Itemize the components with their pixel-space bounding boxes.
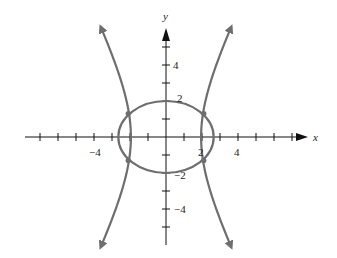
x-axis-arrow-icon xyxy=(296,133,308,141)
x-tick-label-4: 4 xyxy=(234,146,240,158)
x-tick-label-2: 2 xyxy=(198,146,204,158)
intersection-point xyxy=(201,158,206,163)
axes xyxy=(25,28,308,245)
intersection-point xyxy=(126,158,131,163)
y-tick-label-neg4: −4 xyxy=(174,203,186,215)
y-axis-label: y xyxy=(162,10,168,22)
intersection-point xyxy=(201,111,206,116)
y-tick-label-neg2: −2 xyxy=(174,169,186,181)
y-tick-label-2: 2 xyxy=(177,92,183,104)
intersection-point xyxy=(126,111,131,116)
y-axis-arrow-icon xyxy=(162,28,170,41)
x-axis-label: x xyxy=(312,131,318,143)
plot-area: x y −4 2 4 4 2 −2 −4 xyxy=(0,0,337,258)
x-tick-label-neg4: −4 xyxy=(89,146,101,158)
y-tick-label-4: 4 xyxy=(173,59,179,71)
